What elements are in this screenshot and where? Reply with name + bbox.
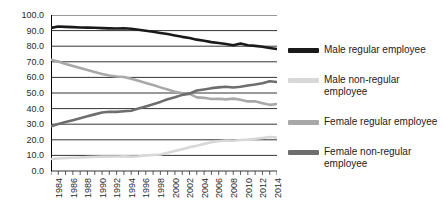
y-axis-tick-label: 70.0 [26, 57, 44, 67]
x-axis-tick-label: 1992 [113, 178, 122, 198]
x-axis-tick-label: 2006 [215, 178, 224, 198]
y-axis-tick-label: 0.0 [31, 166, 44, 176]
legend-color-swatch [288, 150, 319, 155]
legend-label: Male non-regular employee [324, 74, 442, 98]
legend-item[interactable]: Female non-regular employee [288, 146, 443, 170]
x-axis-tick-label: 1988 [84, 178, 93, 198]
legend-item[interactable]: Female regular employee [288, 116, 443, 128]
x-axis-tick-labels: 1984198619881990199219941996199820002002… [51, 176, 277, 213]
y-axis-tick-label: 30.0 [26, 119, 44, 129]
legend-label: Female regular employee [324, 116, 442, 128]
x-axis-tick-label: 1984 [55, 178, 64, 198]
legend-label: Female non-regular employee [324, 146, 442, 170]
legend-item[interactable]: Male regular employee [288, 44, 443, 56]
y-axis-tick-label: 100.0 [21, 10, 44, 20]
x-axis-tick-label: 2012 [259, 178, 268, 198]
y-axis-tick-label: 80.0 [26, 41, 44, 51]
y-axis-tick-label: 60.0 [26, 72, 44, 82]
chart-legend: Male regular employeeMale non-regular em… [288, 44, 443, 170]
legend-color-swatch [288, 78, 319, 83]
x-axis-tick-label: 1994 [128, 178, 137, 198]
x-axis-tick-label: 2014 [274, 178, 283, 198]
x-axis-tick-label: 2000 [172, 178, 181, 198]
line-chart-figure: 100.090.080.070.060.050.040.030.020.010.… [0, 0, 443, 213]
plot-area [51, 15, 277, 171]
series-line [51, 27, 277, 49]
x-axis-tick-label: 2004 [201, 178, 210, 198]
y-axis-tick-label: 50.0 [26, 88, 44, 98]
y-axis-tick-label: 40.0 [26, 104, 44, 114]
plot-container: 100.090.080.070.060.050.040.030.020.010.… [0, 0, 290, 213]
x-axis-tick-label: 2008 [230, 178, 239, 198]
x-axis-tick-label: 2010 [245, 178, 254, 198]
x-axis-tick-label: 2002 [186, 178, 195, 198]
y-axis-tick-label: 10.0 [26, 150, 44, 160]
x-axis-tick-label: 1998 [157, 178, 166, 198]
x-axis-tick-label: 1996 [142, 178, 151, 198]
chart-svg [51, 15, 277, 176]
legend-item[interactable]: Male non-regular employee [288, 74, 443, 98]
x-axis-tick-label: 1986 [70, 178, 79, 198]
series-line [51, 60, 277, 105]
legend-color-swatch [288, 48, 319, 53]
legend-label: Male regular employee [324, 44, 442, 56]
y-axis-tick-label: 90.0 [26, 26, 44, 36]
y-axis-tick-labels: 100.090.080.070.060.050.040.030.020.010.… [0, 9, 44, 177]
x-axis-tick-label: 1990 [99, 178, 108, 198]
y-axis-tick-label: 20.0 [26, 135, 44, 145]
legend-color-swatch [288, 120, 319, 125]
